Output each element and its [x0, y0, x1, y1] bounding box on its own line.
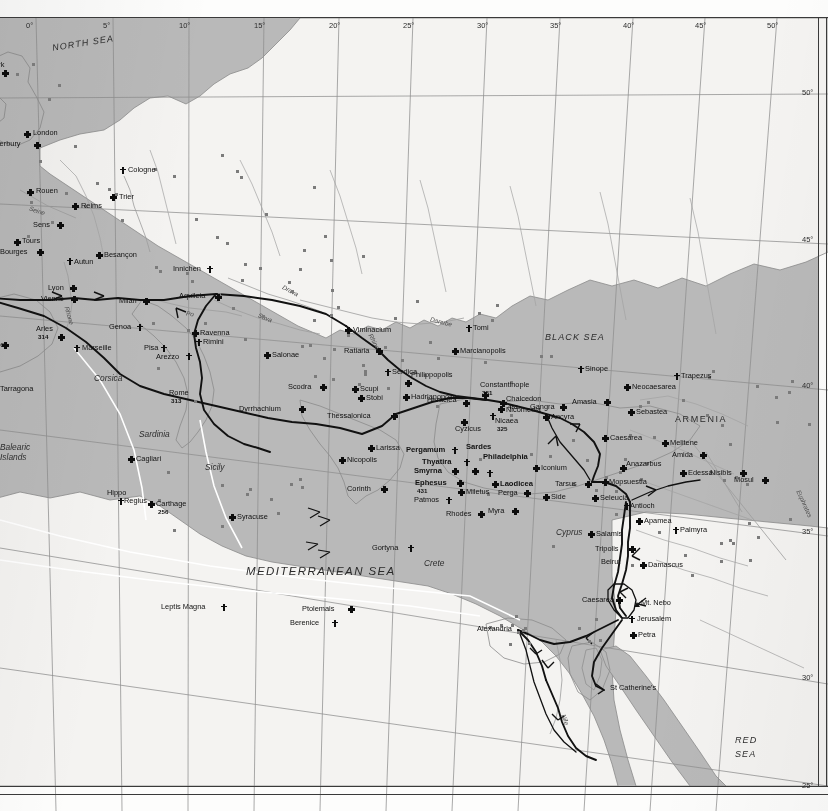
minor-town-marker: [595, 489, 598, 492]
place-label: Tomi: [473, 324, 489, 331]
council-date: 381: [482, 389, 492, 396]
place-label: Constantinople: [480, 381, 529, 388]
sea-label: RED: [735, 735, 757, 745]
place-label: Viminacium: [353, 326, 391, 333]
bishopric-cross-icon: [376, 348, 383, 355]
place-label: Innichen: [173, 265, 201, 272]
minor-town-marker: [65, 192, 68, 195]
minor-town-marker: [337, 306, 340, 309]
place-label: Sens: [33, 221, 50, 228]
church-cross-icon: [578, 366, 584, 373]
longitude-label: 10°: [179, 21, 190, 30]
place-label: Reims: [81, 202, 102, 209]
minor-town-marker: [226, 242, 229, 245]
minor-town-marker: [436, 405, 439, 408]
frame-bottom-border: [0, 786, 828, 787]
latitude-label: 35°: [802, 527, 813, 536]
minor-town-marker: [791, 380, 794, 383]
minor-town-marker: [58, 84, 61, 87]
bishopric-cross-icon: [96, 252, 103, 259]
minor-town-marker: [347, 334, 350, 337]
geography-layer: [0, 0, 828, 811]
place-label: Smyrna: [414, 467, 442, 475]
place-label: Damascus: [648, 561, 683, 568]
place-label: Dyrrhachium: [239, 405, 281, 412]
minor-town-marker: [684, 554, 687, 557]
place-label: Genoa: [109, 323, 131, 330]
place-label: Sardes: [466, 443, 491, 451]
place-label: Syracuse: [237, 513, 268, 520]
church-cross-icon: [452, 447, 458, 454]
bishopric-cross-icon: [512, 508, 519, 515]
minor-town-marker: [387, 387, 390, 390]
minor-town-marker: [362, 364, 365, 367]
region-label: ARMENIA: [675, 414, 727, 424]
minor-town-marker: [32, 63, 35, 66]
minor-town-marker: [324, 235, 327, 238]
place-label: Laodicea: [500, 480, 533, 488]
minor-town-marker: [528, 642, 531, 645]
bishopric-cross-icon: [358, 395, 365, 402]
minor-town-marker: [720, 560, 723, 563]
minor-town-marker: [586, 459, 589, 462]
place-label: Myra: [488, 507, 504, 514]
place-label: Cologne: [128, 166, 156, 173]
place-label: Larissa: [376, 444, 400, 451]
bishopric-cross-icon: [636, 518, 643, 525]
minor-town-marker: [244, 338, 247, 341]
place-label: Philadelphia: [483, 453, 528, 461]
minor-town-marker: [240, 176, 243, 179]
minor-town-marker: [552, 545, 555, 548]
bishopric-cross-icon: [629, 546, 636, 553]
mountain-icon: [634, 602, 640, 607]
minor-town-marker: [615, 513, 618, 516]
place-label: Neocaesarea: [632, 383, 676, 390]
minor-town-marker: [191, 280, 194, 283]
place-label: Mosul: [734, 476, 754, 483]
bishopric-cross-icon: [472, 468, 479, 475]
place-label: Iconium: [541, 464, 567, 471]
minor-town-marker: [299, 478, 302, 481]
bishopric-cross-icon: [229, 514, 236, 521]
minor-town-marker: [270, 498, 273, 501]
place-label: Perga: [498, 489, 518, 496]
place-label: Ravenna: [200, 329, 230, 336]
minor-town-marker: [808, 423, 811, 426]
latitude-label: 30°: [802, 673, 813, 682]
church-cross-icon: [207, 266, 213, 273]
minor-town-marker: [578, 627, 581, 630]
bishopric-cross-icon: [57, 222, 64, 229]
minor-town-marker: [290, 483, 293, 486]
minor-town-marker: [496, 304, 499, 307]
place-label: Tarragona: [0, 385, 33, 392]
minor-town-marker: [291, 290, 294, 293]
river-label: Po: [186, 309, 195, 317]
frame-bottom-border-2: [0, 794, 828, 795]
bishopric-cross-icon: [71, 296, 78, 303]
place-label: Sinope: [585, 365, 608, 372]
bishopric-cross-icon: [345, 327, 352, 334]
church-cross-icon: [161, 345, 167, 352]
place-label: Miletus: [466, 488, 489, 495]
place-label: Bourges: [0, 248, 28, 255]
place-label: Palmyra: [680, 526, 707, 533]
place-label: St Catherine's: [610, 684, 656, 691]
church-cross-icon: [673, 527, 679, 534]
minor-town-marker: [249, 488, 252, 491]
place-label: Mt. Nebo: [641, 599, 671, 606]
bishopric-cross-icon: [604, 399, 611, 406]
place-label: Trier: [119, 193, 134, 200]
minor-town-marker: [729, 539, 732, 542]
minor-town-marker: [167, 471, 170, 474]
church-cross-icon: [466, 325, 472, 332]
minor-town-marker: [195, 218, 198, 221]
church-cross-icon: [196, 339, 202, 346]
minor-town-marker: [647, 401, 650, 404]
church-cross-icon: [137, 324, 143, 331]
minor-town-marker: [221, 154, 224, 157]
place-label: Mopsuestia: [609, 478, 647, 485]
minor-town-marker: [682, 399, 685, 402]
minor-town-marker: [653, 436, 656, 439]
place-label: Tarsus: [555, 480, 577, 487]
bishopric-cross-icon: [662, 440, 669, 447]
